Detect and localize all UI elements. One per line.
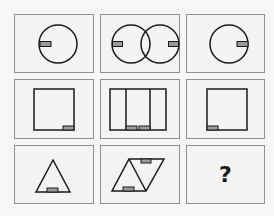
puzzle-cell-r3c1 (14, 145, 94, 204)
triangle-bottom-marker-icon (15, 146, 95, 205)
puzzle-cell-r2c1 (14, 79, 94, 139)
puzzle-cell-r1c2 (100, 14, 180, 73)
puzzle-cell-r1c3 (186, 14, 265, 73)
overlapping-circles-icon (101, 15, 181, 74)
puzzle-cell-r2c3 (186, 79, 265, 139)
three-panel-rectangle-icon (101, 80, 181, 140)
parallelogram-two-triangles-icon (101, 146, 181, 205)
circle-with-left-marker-icon (15, 15, 95, 74)
puzzle-cell-r1c1 (14, 14, 94, 73)
puzzle-cell-r3c3-answer[interactable]: ? (186, 145, 265, 204)
puzzle-cell-r2c2 (100, 79, 180, 139)
question-mark: ? (187, 146, 264, 203)
circle-with-right-marker-icon (187, 15, 266, 74)
square-bottom-right-marker-icon (15, 80, 95, 140)
puzzle-cell-r3c2 (100, 145, 180, 204)
square-bottom-left-marker-icon (187, 80, 266, 140)
